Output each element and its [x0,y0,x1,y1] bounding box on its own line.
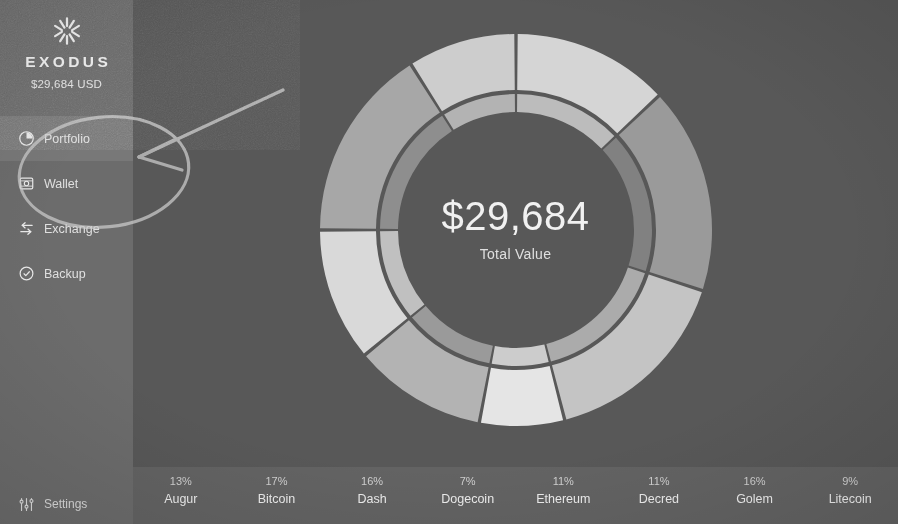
sliders-icon [18,496,35,513]
sidebar-item-exchange[interactable]: Exchange [0,206,133,251]
legend-item[interactable]: 11%Decred [611,475,707,507]
legend-item[interactable]: 16%Dash [324,475,420,507]
sidebar-item-portfolio[interactable]: Portfolio [0,116,133,161]
legend-asset-name: Decred [611,491,707,507]
pie-chart-icon [18,130,35,147]
legend-percent: 16% [324,475,420,489]
main-panel: $29,684 Total Value 13%Augur17%Bitcoin16… [133,0,898,524]
legend-item[interactable]: 13%Augur [133,475,229,507]
legend-asset-name: Litecoin [802,491,898,507]
legend-asset-name: Dogecoin [420,491,516,507]
sidebar-item-label: Settings [44,497,87,511]
donut-inner-ring [380,94,652,366]
brand-block: EXODUS $29,684 USD [0,0,133,110]
donut-svg [312,26,720,434]
legend-asset-name: Dash [324,491,420,507]
legend-percent: 16% [707,475,803,489]
sidebar-flex-gap [0,296,133,484]
exodus-snowflake-logo-icon [50,14,84,48]
exchange-arrows-icon [18,220,35,237]
legend-asset-name: Golem [707,491,803,507]
asset-legend: 13%Augur17%Bitcoin16%Dash7%Dogecoin11%Et… [133,467,898,524]
sidebar-total-usd: $29,684 USD [0,79,133,91]
legend-asset-name: Ethereum [516,491,612,507]
exodus-wallet-window: EXODUS $29,684 USD Portfolio Wallet [0,0,898,524]
legend-asset-name: Augur [133,491,229,507]
legend-percent: 7% [420,475,516,489]
legend-item[interactable]: 9%Litecoin [802,475,898,507]
legend-percent: 11% [516,475,612,489]
legend-item[interactable]: 7%Dogecoin [420,475,516,507]
legend-percent: 11% [611,475,707,489]
sidebar-item-backup[interactable]: Backup [0,251,133,296]
sidebar-item-wallet[interactable]: Wallet [0,161,133,206]
donut-segment[interactable] [480,366,562,426]
portfolio-donut-chart[interactable]: $29,684 Total Value [312,26,720,434]
wallet-icon [18,175,35,192]
sidebar: EXODUS $29,684 USD Portfolio Wallet [0,0,133,524]
legend-item[interactable]: 17%Bitcoin [229,475,325,507]
sidebar-nav: Portfolio Wallet Exchange [0,116,133,296]
brand-name: EXODUS [0,54,133,70]
legend-percent: 13% [133,475,229,489]
backup-shield-icon [18,265,35,282]
donut-segment[interactable] [491,345,548,366]
sidebar-item-settings[interactable]: Settings [0,484,133,524]
legend-percent: 17% [229,475,325,489]
donut-outer-ring [320,34,712,426]
legend-item[interactable]: 11%Ethereum [516,475,612,507]
sidebar-item-label: Exchange [44,222,100,236]
sidebar-item-label: Backup [44,267,86,281]
legend-asset-name: Bitcoin [229,491,325,507]
sidebar-item-label: Wallet [44,177,78,191]
legend-item[interactable]: 16%Golem [707,475,803,507]
sidebar-item-label: Portfolio [44,132,90,146]
legend-percent: 9% [802,475,898,489]
